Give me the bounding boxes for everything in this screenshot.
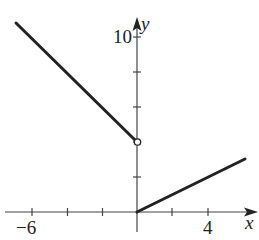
x-tick-label-neg6: −6 (16, 217, 36, 238)
x-tick-label-4: 4 (203, 217, 213, 238)
piecewise-graph: −6 4 10 x y (0, 0, 259, 240)
x-axis-label: x (244, 212, 254, 233)
open-circle-marker (134, 139, 140, 145)
right-piece-line (137, 159, 245, 212)
y-axis-label: y (139, 13, 150, 34)
y-tick-label-10: 10 (113, 26, 132, 47)
